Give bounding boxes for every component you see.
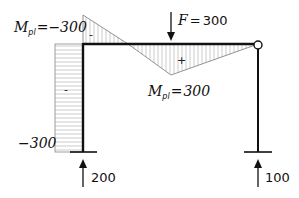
mid-moment-label: Mpl=300: [147, 83, 210, 101]
load-label: F=300: [177, 12, 227, 28]
left-moment-label: Mpl=−300: [13, 19, 87, 37]
left-reaction-value: 200: [91, 170, 116, 185]
column-moment-value: −300: [18, 135, 57, 151]
column-moment-diagram: [55, 44, 83, 152]
right-reaction-arrow-icon: [254, 159, 262, 187]
left-reaction-arrow-icon: [79, 159, 87, 187]
load-arrow-icon: [167, 12, 175, 41]
right-reaction-value: 100: [265, 170, 290, 185]
hinge-icon: [254, 41, 262, 49]
sign-left-triangle: -: [89, 28, 93, 41]
positive-moment-region: [128, 44, 258, 75]
sign-beam-positive: +: [177, 54, 186, 67]
frame-diagram: F=300 Mpl=−300 Mpl=300 −300 - + - 200 10…: [0, 0, 299, 198]
sign-column: -: [64, 83, 68, 96]
